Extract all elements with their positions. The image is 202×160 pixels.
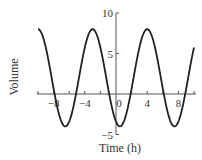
x-axis-title: Time (h) [99, 141, 141, 155]
x-tick-label: 8 [176, 97, 182, 109]
x-tick-label: 4 [144, 97, 150, 109]
volume-time-chart: −8−4048 −5510 Time (h) Volume [0, 0, 202, 160]
y-axis-title: Volume [7, 58, 21, 95]
x-tick-label: −4 [79, 97, 91, 109]
y-tick-label: 10 [102, 7, 114, 19]
y-tick-label: 5 [108, 48, 114, 60]
y-tick-label: −5 [101, 129, 113, 141]
x-tick-label: 0 [116, 97, 122, 109]
